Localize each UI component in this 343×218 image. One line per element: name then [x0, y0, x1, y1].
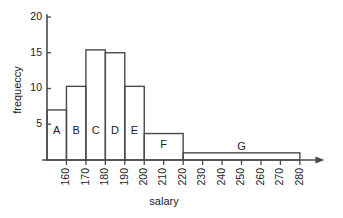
bar-label-g: G: [237, 140, 246, 152]
histogram-chart: 5101520160170180190200210220230240250260…: [0, 0, 343, 218]
x-tick-label: 180: [98, 168, 110, 186]
x-tick-label: 200: [137, 168, 149, 186]
x-tick-label: 260: [254, 168, 266, 186]
x-tick-label: 190: [118, 168, 130, 186]
bar-label-b: B: [73, 124, 80, 136]
y-tick-label: 15: [30, 46, 42, 58]
x-axis-arrow-icon: [315, 157, 324, 164]
x-tick-label: 280: [293, 168, 305, 186]
x-tick-label: 220: [176, 168, 188, 186]
x-tick-label: 210: [156, 168, 168, 186]
y-tick-label: 5: [36, 117, 42, 129]
histogram-bar: [105, 53, 124, 160]
y-axis-title: frequeccy: [11, 66, 23, 114]
x-axis-title: salary: [149, 195, 179, 207]
bar-label-a: A: [53, 124, 61, 136]
histogram-plot-area: 5101520160170180190200210220230240250260…: [0, 0, 343, 218]
histogram-bar: [183, 153, 300, 160]
y-tick-label: 20: [30, 10, 42, 22]
x-tick-label: 270: [273, 168, 285, 186]
bar-label-d: D: [111, 124, 119, 136]
x-tick-label: 170: [79, 168, 91, 186]
x-tick-label: 250: [234, 168, 246, 186]
bar-label-f: F: [160, 138, 167, 150]
x-tick-label: 160: [59, 168, 71, 186]
histogram-bar: [86, 50, 105, 160]
x-tick-label: 240: [215, 168, 227, 186]
bar-label-c: C: [92, 124, 100, 136]
x-tick-label: 230: [195, 168, 207, 186]
bar-label-e: E: [131, 124, 138, 136]
y-tick-label: 10: [30, 81, 42, 93]
